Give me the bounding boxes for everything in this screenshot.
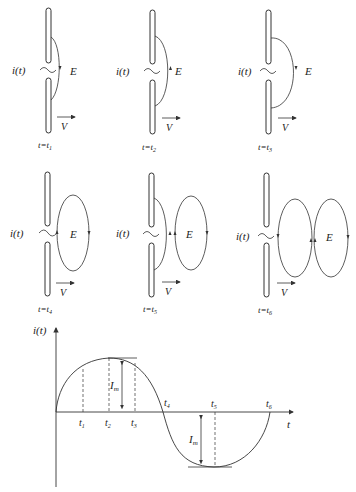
y-axis-label: i(t)	[33, 324, 47, 337]
panel-t6: i(t) E V t=t6	[236, 173, 350, 316]
dipole-lower-rod	[46, 78, 51, 133]
ac-source-icon	[258, 234, 274, 239]
dipole-upper-rod	[264, 173, 269, 227]
tick-t4: t4	[164, 397, 170, 409]
time-label: t=t2	[142, 142, 156, 153]
field-label: E	[69, 228, 77, 240]
panel-t5: i(t) E V t=t5	[116, 173, 209, 315]
current-waveform-graph: i(t) t Im Im t1 t2 t3 t4 t5 t6	[33, 324, 293, 487]
velocity-label: V	[166, 122, 174, 133]
field-label: E	[304, 65, 312, 77]
dipole-lower-rod	[150, 80, 155, 134]
time-label: t=t3	[258, 142, 272, 153]
current-label: i(t)	[116, 65, 130, 78]
field-arrow-icon	[56, 230, 59, 234]
time-label: t=t4	[38, 304, 52, 315]
field-arrow-icon	[169, 66, 172, 70]
x-axis-label: t	[287, 418, 291, 430]
ac-source-icon	[260, 69, 276, 74]
ac-source-icon	[143, 232, 159, 237]
velocity-label: V	[281, 287, 289, 298]
amplitude-label: Im	[188, 433, 198, 447]
velocity-label: V	[165, 286, 173, 297]
tick-t5: t5	[211, 398, 217, 410]
current-label: i(t)	[236, 230, 250, 243]
field-line	[155, 36, 168, 106]
dipole-upper-rod	[150, 10, 155, 64]
dipole-upper-rod	[149, 173, 154, 227]
closed-field-loop	[278, 199, 312, 277]
velocity-label: V	[282, 122, 290, 133]
field-label: E	[174, 65, 182, 77]
panel-t3: i(t) E V t=t3	[238, 10, 312, 153]
field-label: E	[185, 228, 193, 240]
time-label: t=t5	[143, 304, 157, 315]
field-line	[51, 37, 59, 100]
time-label: t=t6	[258, 305, 272, 316]
field-arrow-icon	[295, 66, 298, 70]
panel-t1: i(t) E V t=t1	[12, 8, 77, 151]
field-arrow-icon	[169, 231, 172, 235]
panel-t4: i(t) E V t=t4	[10, 172, 91, 315]
ac-source-icon	[39, 230, 57, 236]
velocity-label: V	[60, 287, 68, 298]
field-arrow-icon	[206, 231, 209, 235]
current-label: i(t)	[10, 227, 24, 240]
dipole-radiation-diagram: i(t) E V t=t1 i(t) E V t=t2 i(t) E V t=t…	[0, 0, 356, 492]
current-label: i(t)	[238, 65, 252, 78]
ac-source-icon	[40, 68, 56, 73]
field-label: E	[69, 65, 77, 77]
tick-t6: t6	[266, 398, 272, 410]
current-waveform	[56, 358, 270, 467]
dipole-lower-rod	[149, 243, 154, 297]
dipole-lower-rod	[264, 243, 269, 297]
dipole-lower-rod	[266, 80, 271, 134]
field-arrow-icon	[347, 235, 350, 239]
tick-t2: t2	[105, 417, 111, 429]
dipole-upper-rod	[266, 10, 271, 64]
current-label: i(t)	[12, 64, 26, 77]
field-arrow-icon	[88, 231, 91, 235]
amplitude-label: Im	[109, 379, 119, 393]
time-label: t=t1	[38, 140, 52, 151]
field-label: E	[325, 231, 333, 243]
current-label: i(t)	[116, 227, 130, 240]
dipole-lower-rod	[45, 242, 50, 296]
velocity-label: V	[61, 121, 69, 132]
dipole-upper-rod	[46, 8, 51, 63]
panel-t2: i(t) E V t=t2	[116, 10, 182, 153]
field-arrow-icon	[277, 234, 280, 238]
field-arrow-icon	[174, 231, 177, 235]
tick-t3: t3	[131, 417, 137, 429]
ac-source-icon	[144, 69, 160, 74]
dipole-upper-rod	[45, 172, 50, 226]
field-line	[154, 198, 166, 270]
tick-t1: t1	[79, 417, 85, 429]
